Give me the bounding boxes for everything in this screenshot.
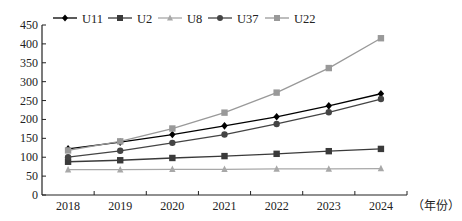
y-tick-label: 400 [20, 37, 38, 51]
diamond-marker-icon [62, 14, 68, 21]
diamond-marker-icon [326, 102, 332, 110]
y-tick-label: 150 [20, 131, 38, 145]
diamond-marker-icon [221, 122, 227, 130]
y-tick-label: 200 [20, 112, 38, 126]
diamond-marker-icon [273, 113, 279, 121]
square-marker-icon [117, 15, 123, 21]
x-tick-label: 2022 [265, 199, 289, 213]
legend-item-u8: U8 [158, 12, 202, 26]
x-axis-title: （年份） [412, 199, 460, 213]
square-marker-icon [117, 157, 123, 163]
circle-marker-icon [65, 154, 71, 160]
circle-marker-icon [273, 121, 279, 127]
legend-label: U22 [294, 12, 316, 26]
circle-marker-icon [326, 109, 332, 115]
square-marker-icon [378, 146, 384, 152]
circle-marker-icon [221, 131, 227, 137]
square-marker-icon [326, 65, 332, 71]
square-marker-icon [221, 153, 227, 159]
y-tick-label: 0 [32, 188, 38, 202]
legend-label: U8 [187, 12, 202, 26]
legend-item-u2: U2 [108, 12, 152, 26]
x-tick-label: 2019 [108, 199, 132, 213]
square-marker-icon [378, 35, 384, 41]
y-tick-label: 300 [20, 75, 38, 89]
square-marker-icon [65, 147, 71, 153]
line-chart: U11U2U8U37U22 05010015020025030035040045… [0, 0, 462, 221]
legend-item-u11: U11 [53, 12, 103, 26]
square-marker-icon [169, 155, 175, 161]
circle-marker-icon [169, 140, 175, 146]
square-marker-icon [221, 109, 227, 115]
y-tick-label: 50 [26, 169, 38, 183]
x-tick-label: 2018 [56, 199, 80, 213]
square-marker-icon [169, 125, 175, 131]
legend-label: U2 [137, 12, 152, 26]
y-tick-label: 350 [20, 56, 38, 70]
square-marker-icon [273, 151, 279, 157]
x-axis: 2018201920202021202220232024 [42, 191, 407, 213]
x-tick-label: 2021 [213, 199, 237, 213]
legend-item-u37: U37 [208, 12, 259, 26]
series-u8 [65, 165, 384, 173]
square-marker-icon [273, 89, 279, 95]
square-marker-icon [274, 15, 280, 21]
circle-marker-icon [217, 15, 223, 21]
plot-area [65, 35, 384, 172]
legend-label: U37 [237, 12, 259, 26]
y-tick-label: 450 [20, 18, 38, 32]
x-tick-label: 2024 [369, 199, 393, 213]
circle-marker-icon [378, 96, 384, 102]
y-axis: 050100150200250300350400450 [20, 18, 46, 202]
square-marker-icon [117, 138, 123, 144]
legend-item-u22: U22 [265, 12, 316, 26]
legend-label: U11 [82, 12, 103, 26]
series-u2 [65, 146, 384, 165]
diamond-marker-icon [169, 131, 175, 139]
x-tick-label: 2020 [160, 199, 184, 213]
legend: U11U2U8U37U22 [53, 12, 316, 26]
circle-marker-icon [117, 148, 123, 154]
y-tick-label: 100 [20, 150, 38, 164]
x-tick-label: 2023 [317, 199, 341, 213]
square-marker-icon [326, 148, 332, 154]
y-tick-label: 250 [20, 94, 38, 108]
